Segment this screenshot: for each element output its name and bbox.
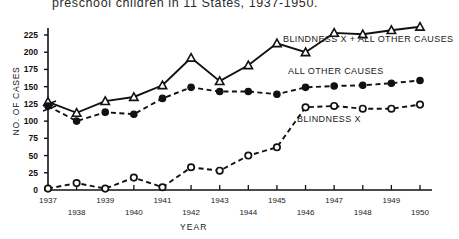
series-label-blindness-x: BLINDNESS X <box>297 114 361 124</box>
series-label-combined: BLINDNESS X + ALL OTHER CAUSES <box>283 34 453 44</box>
marker-filled-circle <box>188 84 194 90</box>
marker-filled-circle <box>216 88 222 94</box>
marker-open-circle <box>131 174 137 180</box>
marker-filled-circle <box>274 91 280 97</box>
marker-open-circle <box>331 103 337 109</box>
marker-filled-circle <box>302 84 308 90</box>
series-label-all-other-causes: ALL OTHER CAUSES <box>288 66 384 76</box>
marker-open-circle <box>102 185 108 191</box>
marker-open-circle <box>360 106 366 112</box>
marker-filled-circle <box>73 118 79 124</box>
marker-open-circle <box>302 104 308 110</box>
marker-open-triangle <box>387 26 395 34</box>
marker-filled-circle <box>131 111 137 117</box>
marker-open-triangle <box>101 97 109 105</box>
marker-filled-circle <box>331 83 337 89</box>
marker-filled-circle <box>388 80 394 86</box>
marker-filled-circle <box>245 88 251 94</box>
marker-filled-circle <box>360 82 366 88</box>
data-series-layer <box>44 23 424 192</box>
marker-open-circle <box>73 180 79 186</box>
marker-open-triangle <box>416 23 424 31</box>
marker-open-circle <box>388 106 394 112</box>
marker-open-circle <box>159 184 165 190</box>
marker-open-triangle <box>72 109 80 117</box>
marker-open-circle <box>245 152 251 158</box>
marker-open-triangle <box>130 93 138 101</box>
axis-lines <box>45 28 432 190</box>
marker-filled-circle <box>45 103 51 109</box>
marker-open-circle <box>274 144 280 150</box>
marker-open-circle <box>216 168 222 174</box>
series-2 <box>45 101 423 191</box>
marker-open-circle <box>188 164 194 170</box>
marker-filled-circle <box>102 109 108 115</box>
series-line <box>48 105 420 189</box>
marker-filled-circle <box>417 77 423 83</box>
marker-open-triangle <box>273 39 281 47</box>
marker-open-circle <box>417 101 423 107</box>
marker-open-triangle <box>187 54 195 62</box>
marker-filled-circle <box>159 95 165 101</box>
marker-open-circle <box>45 185 51 191</box>
series-1 <box>45 77 423 124</box>
